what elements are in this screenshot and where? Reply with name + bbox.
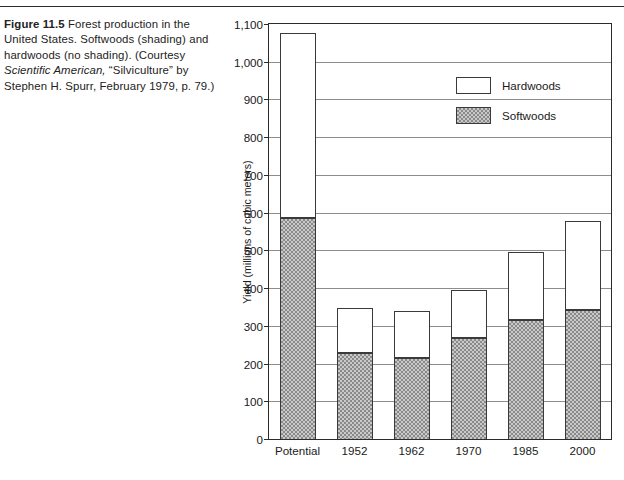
bar-segment-hardwoods bbox=[337, 308, 373, 353]
figure-label: Figure 11.5 bbox=[4, 18, 65, 30]
x-tick-label-1952: 1952 bbox=[342, 444, 368, 457]
y-tick-label: 300 bbox=[244, 319, 263, 332]
y-tick-label: 0 bbox=[257, 433, 263, 446]
y-tick-label: 500 bbox=[244, 244, 263, 257]
x-tick-label-1985: 1985 bbox=[513, 444, 539, 457]
legend-swatch-softwoods-icon bbox=[456, 107, 491, 124]
bar-segment-hardwoods bbox=[508, 252, 544, 320]
figure-caption: Figure 11.5 Forest production in the Uni… bbox=[4, 17, 222, 94]
legend-label-hardwoods: Hardwoods bbox=[502, 79, 561, 92]
x-tick-label-2000: 2000 bbox=[570, 444, 596, 457]
bar-1952 bbox=[337, 309, 373, 439]
y-tick-label: 600 bbox=[244, 206, 263, 219]
bar-1962 bbox=[394, 312, 430, 439]
x-tick-label-potential: Potential bbox=[275, 444, 320, 457]
plot-area: Yield (millions of cubic meters) 0100200… bbox=[268, 23, 612, 440]
bar-1985 bbox=[508, 253, 544, 439]
x-tick-label-1962: 1962 bbox=[399, 444, 425, 457]
bar-segment-hardwoods bbox=[394, 311, 430, 358]
bar-segment-softwoods bbox=[508, 320, 544, 439]
y-tick-label: 100 bbox=[244, 395, 263, 408]
legend-swatch-hardwoods-icon bbox=[456, 77, 491, 94]
bar-segment-hardwoods bbox=[280, 33, 316, 218]
chart-legend: Hardwoods Softwoods bbox=[456, 72, 616, 132]
y-tick-label: 1,100 bbox=[234, 18, 263, 31]
y-tick-label: 400 bbox=[244, 282, 263, 295]
bar-segment-softwoods bbox=[337, 353, 373, 439]
y-tick-label: 900 bbox=[244, 93, 263, 106]
y-tick-label: 1,000 bbox=[234, 55, 263, 68]
bar-potential bbox=[280, 35, 316, 439]
x-tick-label-1970: 1970 bbox=[456, 444, 482, 457]
legend-item-hardwoods: Hardwoods bbox=[456, 72, 616, 98]
figure-caption-italic: Scientific American, bbox=[4, 64, 106, 76]
legend-label-softwoods: Softwoods bbox=[502, 109, 556, 122]
legend-item-softwoods: Softwoods bbox=[456, 102, 616, 128]
bar-2000 bbox=[565, 222, 601, 439]
bar-segment-softwoods bbox=[565, 310, 601, 439]
bar-segment-softwoods bbox=[451, 338, 487, 439]
bar-segment-softwoods bbox=[280, 218, 316, 439]
bar-segment-hardwoods bbox=[565, 221, 601, 310]
bar-segment-hardwoods bbox=[451, 290, 487, 338]
bar-1970 bbox=[451, 291, 487, 439]
y-tick-label: 200 bbox=[244, 357, 263, 370]
chart-container: Yield (millions of cubic meters) 0100200… bbox=[230, 0, 624, 480]
bar-segment-softwoods bbox=[394, 358, 430, 439]
y-tick-mark bbox=[264, 439, 269, 440]
y-tick-label: 800 bbox=[244, 131, 263, 144]
y-tick-label: 700 bbox=[244, 168, 263, 181]
